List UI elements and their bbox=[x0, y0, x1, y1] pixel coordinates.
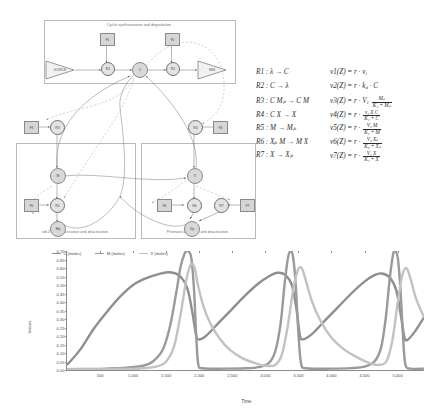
equation-row: R2 : C → λ v2(Z) = r · kd · C bbox=[256, 82, 436, 96]
legend-item: M (moles) bbox=[95, 251, 125, 256]
equation-rhs: v5(Z) = r · V₂ M K₂ + M bbox=[330, 122, 436, 134]
chart-y-tick-mark bbox=[65, 370, 67, 371]
chart-y-tick-mark bbox=[65, 362, 67, 363]
legend-item: C (moles) bbox=[52, 251, 81, 256]
legend-label: C (moles) bbox=[64, 251, 82, 256]
equation-rhs: v2(Z) = r · kd · C bbox=[330, 82, 436, 90]
factor-F2[interactable]: F2 bbox=[165, 33, 180, 46]
chart-y-tick-mark bbox=[65, 345, 67, 346]
place-Mp[interactable]: Mp bbox=[50, 221, 66, 237]
transition-R1-label: R1 bbox=[106, 67, 110, 71]
chart-y-tick-mark bbox=[65, 353, 67, 354]
transition-R6[interactable]: R6 bbox=[187, 198, 202, 213]
place-M-label: M bbox=[57, 174, 60, 178]
equation-fraction: Mₚ K₄ + Mₚ bbox=[372, 96, 392, 108]
factor-F1[interactable]: F1 bbox=[100, 33, 115, 46]
chart-y-tick-mark bbox=[65, 285, 67, 286]
chart-y-tick: 0.10 bbox=[57, 351, 65, 356]
equation-rhs: v6(Z) = r · V₃ Xₚ K₃ + Xₚ bbox=[330, 136, 436, 148]
equation-rate-tail: vi bbox=[362, 68, 367, 76]
timeseries-chart: Values 0.000.050.100.150.200.250.300.350… bbox=[22, 243, 430, 411]
place-C-label: C bbox=[139, 68, 141, 72]
place-C[interactable]: C bbox=[132, 62, 148, 78]
equation-row: R6 : Xₚ M → M X v6(Z) = r · V₃ Xₚ K₃ + X… bbox=[256, 136, 436, 150]
equation-rhs: v7(Z) = r · V₄ X K₄ + X bbox=[330, 150, 436, 162]
chart-y-tick-mark bbox=[65, 319, 67, 320]
factor-F7[interactable]: F7 bbox=[240, 199, 255, 212]
transition-R1[interactable]: R1 bbox=[101, 62, 115, 76]
chart-x-tick-mark bbox=[232, 251, 233, 253]
chart-y-tick-mark bbox=[65, 336, 67, 337]
chart-x-tick: 5,000 bbox=[392, 373, 402, 378]
equation-rhs: v4(Z) = r · v₄ X C K₄ + C bbox=[330, 109, 436, 121]
transition-R7[interactable]: R7 bbox=[214, 198, 229, 213]
chart-y-tick: 0.40 bbox=[57, 300, 65, 305]
chart-y-tick: 0.15 bbox=[57, 342, 65, 347]
fraction-denominator: K₄ + Mₚ bbox=[372, 103, 392, 109]
factor-F4[interactable]: F4 bbox=[213, 121, 228, 134]
chart-y-tick: 0.00 bbox=[57, 368, 65, 373]
place-M[interactable]: M bbox=[50, 168, 66, 184]
legend-swatch-c bbox=[52, 253, 61, 254]
equation-fraction: V₃ Xₚ K₃ + Xₚ bbox=[363, 137, 382, 149]
chart-y-tick: 0.55 bbox=[57, 274, 65, 279]
transition-R2[interactable]: R2 bbox=[166, 62, 180, 76]
chart-curves bbox=[67, 251, 424, 370]
equation-rate: v6(Z) = r · bbox=[330, 138, 360, 146]
chart-x-tick-mark bbox=[298, 251, 299, 253]
equation-lhs: R1 : λ → C bbox=[256, 68, 330, 76]
chart-x-tick: 4,000 bbox=[326, 373, 336, 378]
equation-lhs: R2 : C → λ bbox=[256, 82, 330, 90]
chart-y-tick: 0.50 bbox=[57, 283, 65, 288]
transition-R3-label: R3 bbox=[55, 126, 59, 130]
transition-R7-label: R7 bbox=[219, 204, 223, 208]
transition-R2-label: R2 bbox=[171, 67, 175, 71]
terminal-sink-label: SINK bbox=[196, 59, 236, 81]
chart-y-tick-mark bbox=[65, 302, 67, 303]
factor-F5-label: F5 bbox=[30, 204, 34, 208]
legend-item: X (moles) bbox=[139, 251, 168, 256]
chart-y-tick: 0.45 bbox=[57, 291, 65, 296]
fraction-denominator: K₃ + Xₚ bbox=[363, 144, 382, 150]
equation-rate: v5(Z) = r · bbox=[330, 124, 360, 132]
chart-series-line bbox=[67, 251, 424, 369]
chart-x-axis-label: Time bbox=[241, 399, 251, 404]
terminal-source-label: SOURCE bbox=[44, 59, 84, 81]
chart-y-tick-mark bbox=[65, 268, 67, 269]
place-X-label: X bbox=[194, 174, 196, 178]
equation-fraction: v₄ X C K₄ + C bbox=[363, 110, 380, 122]
factor-F4-label: F4 bbox=[219, 126, 223, 130]
equation-rate-tail: kd · C bbox=[362, 82, 378, 90]
place-Xp[interactable]: Xp bbox=[184, 221, 200, 237]
equation-rhs: v1(Z) = r · vi bbox=[330, 68, 436, 76]
chart-y-tick-mark bbox=[65, 328, 67, 329]
transition-R4[interactable]: R4 bbox=[188, 120, 203, 135]
equation-row: R4 : C X → X v4(Z) = r · v₄ X C K₄ + C bbox=[256, 109, 436, 123]
factor-F6[interactable]: F6 bbox=[157, 199, 172, 212]
equation-rhs: v3(Z) = r · V1 Mₚ K₄ + Mₚ bbox=[330, 95, 436, 107]
transition-R3[interactable]: R3 bbox=[50, 120, 65, 135]
equation-lhs: R5 : M → Mₚ bbox=[256, 123, 330, 132]
equation-lhs: R4 : C X → X bbox=[256, 111, 330, 119]
legend-label: M (moles) bbox=[107, 251, 125, 256]
equation-lhs: R3 : C Mₚ → C M bbox=[256, 96, 330, 105]
chart-y-tick: 0.65 bbox=[57, 257, 65, 262]
chart-x-tick: 1,000 bbox=[128, 373, 138, 378]
equation-row: R5 : M → Mₚ v5(Z) = r · V₂ M K₂ + M bbox=[256, 122, 436, 136]
place-X[interactable]: X bbox=[187, 168, 203, 184]
factor-F3[interactable]: F3 bbox=[24, 121, 39, 134]
factor-F6-label: F6 bbox=[163, 204, 167, 208]
transition-R5[interactable]: R5 bbox=[50, 198, 65, 213]
chart-series-line bbox=[67, 272, 424, 365]
equation-fraction: V₄ X K₄ + X bbox=[363, 151, 380, 163]
equation-rate: v4(Z) = r · bbox=[330, 111, 360, 119]
equation-lhs: R7 : X → Xₚ bbox=[256, 150, 330, 159]
chart-x-tick-mark bbox=[398, 251, 399, 253]
chart-x-tick: 500 bbox=[97, 373, 104, 378]
equation-row: R1 : λ → C v1(Z) = r · vi bbox=[256, 68, 436, 82]
chart-x-tick: 4,500 bbox=[359, 373, 369, 378]
factor-F5[interactable]: F5 bbox=[24, 199, 39, 212]
transition-R5-label: R5 bbox=[55, 204, 59, 208]
legend-label: X (moles) bbox=[150, 251, 168, 256]
chart-y-tick-mark bbox=[65, 260, 67, 261]
